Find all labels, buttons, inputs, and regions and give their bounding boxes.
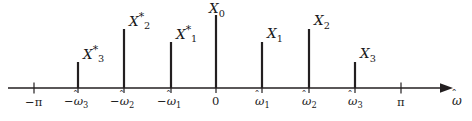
axis-label-omega: ̂ω	[452, 95, 462, 107]
tick-label-neg-pi: −π	[25, 97, 42, 109]
tick-label-omega-1: ̂ω1	[255, 96, 270, 110]
tick-label-zero: 0	[212, 96, 219, 108]
stem-label-X1: X1	[267, 27, 283, 43]
tick-label-omega-2: ̂ω2	[302, 96, 317, 110]
stem-label-X3: X3	[360, 47, 376, 63]
spectrum-figure: X*3 X*2 X*1 X0 X1 X2 X3 −π −̂ω3 −̂ω2 −̂ω…	[0, 0, 472, 121]
stem-label-X2: X2	[314, 14, 330, 30]
stem-label-X1-conj: X*1	[176, 25, 197, 44]
tick-label-omega-3: ̂ω3	[348, 96, 363, 110]
stem-label-X2-conj: X*2	[129, 12, 150, 31]
tick-label-pi: π	[397, 97, 405, 109]
tick-label-neg-omega-2: −̂ω2	[110, 96, 134, 110]
stem-label-X0: X0	[209, 2, 225, 18]
stem-label-X3-conj: X*3	[83, 45, 104, 64]
tick-label-neg-omega-3: −̂ω3	[64, 96, 88, 110]
axis-arrowhead-icon	[440, 83, 453, 93]
tick-label-neg-omega-1: −̂ω1	[157, 96, 181, 110]
